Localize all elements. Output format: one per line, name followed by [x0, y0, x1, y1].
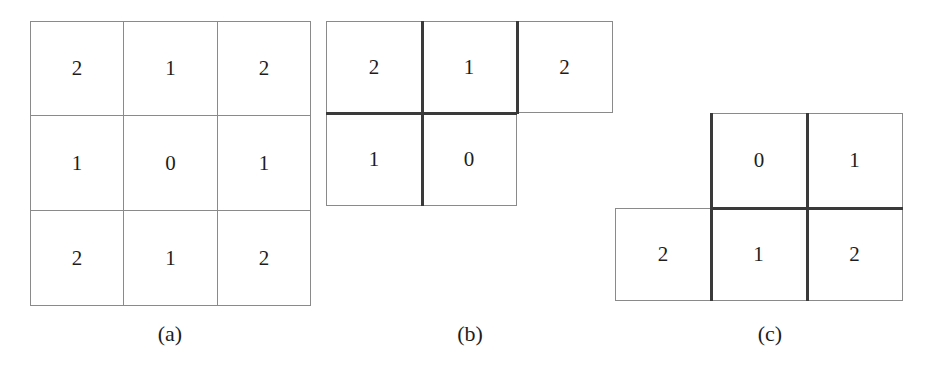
cell-a-r1c1: 0 — [124, 116, 218, 211]
panel-c-thick-divider-row0 — [710, 207, 903, 210]
cell-a-r0c0: 2 — [30, 21, 124, 116]
panel-b: 2 1 2 1 0 — [326, 21, 613, 206]
cell-a-r0c2: 2 — [218, 21, 311, 116]
cell-a-r0c1: 1 — [124, 21, 218, 116]
cell-a-r1c0: 1 — [30, 116, 124, 211]
caption-c: (c) — [720, 323, 820, 345]
cell-b-r0c1: 1 — [422, 21, 517, 113]
cell-c-r1c0: 2 — [615, 208, 711, 301]
cell-b-r1c1: 0 — [422, 113, 517, 206]
cell-c-r1c2: 2 — [807, 208, 903, 301]
cell-a-r1c2: 1 — [218, 116, 311, 211]
panel-a: 2 1 2 1 0 1 2 1 2 — [30, 21, 311, 306]
cell-c-r1c1: 1 — [711, 208, 807, 301]
cell-a-r2c1: 1 — [124, 211, 218, 306]
cell-b-r1c0: 1 — [326, 113, 422, 206]
cell-b-r0c2: 2 — [517, 21, 613, 113]
panel-b-thick-divider-col2 — [516, 21, 519, 114]
cell-c-r0c2: 1 — [807, 113, 903, 208]
figure-root: 2 1 2 1 0 1 2 1 2 (a) 2 1 2 1 0 (b) 0 1 … — [0, 0, 928, 370]
caption-b: (b) — [420, 323, 520, 345]
cell-c-r0c1: 0 — [711, 113, 807, 208]
cell-b-r0c0: 2 — [326, 21, 422, 113]
panel-b-thick-divider-row0 — [326, 112, 517, 115]
panel-c: 0 1 2 1 2 — [615, 113, 903, 301]
caption-a: (a) — [120, 323, 220, 345]
cell-a-r2c0: 2 — [30, 211, 124, 306]
cell-a-r2c2: 2 — [218, 211, 311, 306]
